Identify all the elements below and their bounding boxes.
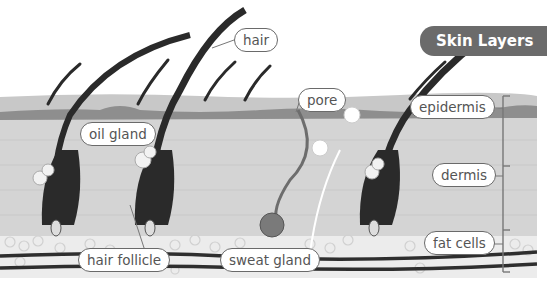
label-hair-follicle: hair follicle [78,248,170,272]
label-epidermis: epidermis [410,95,495,119]
label-hair: hair [234,28,278,52]
skin-layers-title: Skin Layers [420,26,547,56]
sweat-gland-coil [260,213,284,237]
nerve-ending [312,140,328,156]
label-sweat-gland: sweat gland [220,248,320,272]
label-fat-cells: fat cells [424,231,495,255]
label-pore: pore [298,88,346,112]
label-oil-gland: oil gland [80,122,156,146]
label-dermis: dermis [432,163,496,187]
